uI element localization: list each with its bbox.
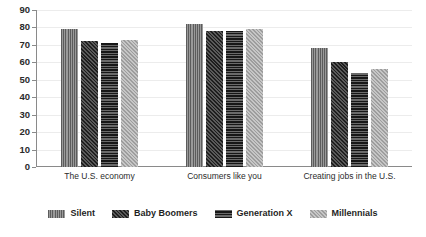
legend-swatch-icon [112, 210, 129, 218]
legend-item-generation-x[interactable]: Generation X [215, 209, 293, 218]
legend-label: Baby Boomers [134, 209, 198, 218]
bar-groups [37, 10, 412, 167]
legend-swatch-icon [48, 210, 65, 218]
y-axis-tick-label: 40 [19, 92, 30, 102]
bar [371, 69, 388, 167]
legend-swatch-icon [310, 210, 327, 218]
bar [101, 43, 118, 167]
bar [226, 31, 243, 167]
plot-area: 9080706050403020100 [36, 10, 412, 167]
y-axis-tick-label: 20 [19, 127, 30, 137]
legend-label: Millennials [332, 209, 378, 218]
bar [311, 48, 328, 167]
bar [61, 29, 78, 167]
bar [186, 24, 203, 167]
y-axis-tick-label: 30 [19, 110, 30, 120]
bar-group [162, 10, 287, 167]
chart-legend: SilentBaby BoomersGeneration XMillennial… [0, 209, 426, 218]
legend-item-millennials[interactable]: Millennials [310, 209, 378, 218]
tick-mark [32, 132, 36, 133]
legend-label: Silent [70, 209, 95, 218]
y-axis-tick-label: 80 [19, 23, 30, 33]
bar [351, 73, 368, 167]
bar-group-bars [162, 10, 287, 167]
bar [331, 62, 348, 167]
bar-group-bars [37, 10, 162, 167]
bar [81, 41, 98, 167]
tick-mark [32, 115, 36, 116]
bar [206, 31, 223, 167]
y-axis-tick-label: 60 [19, 58, 30, 68]
tick-mark [32, 27, 36, 28]
y-axis-tick-label: 70 [19, 40, 30, 50]
y-axis-tick-label: 90 [19, 5, 30, 15]
legend-swatch-icon [215, 210, 232, 218]
legend-item-baby-boomers[interactable]: Baby Boomers [112, 209, 198, 218]
tick-mark [32, 167, 36, 168]
category-axis-labels: The U.S. economyConsumers like youCreati… [37, 172, 412, 181]
tick-mark [32, 80, 36, 81]
legend-item-silent[interactable]: Silent [48, 209, 95, 218]
bar-group [287, 10, 412, 167]
tick-mark [32, 62, 36, 63]
category-label: Consumers like you [162, 172, 287, 181]
y-axis-tick-label: 50 [19, 75, 30, 85]
tick-mark [32, 10, 36, 11]
tick-mark [32, 150, 36, 151]
bar-group [37, 10, 162, 167]
bar-group-bars [287, 10, 412, 167]
bar [121, 40, 138, 167]
y-axis-tick-label: 10 [19, 145, 30, 155]
bar [246, 29, 263, 167]
tick-mark [32, 45, 36, 46]
legend-label: Generation X [237, 209, 293, 218]
category-label: Creating jobs in the U.S. [287, 172, 412, 181]
category-label: The U.S. economy [37, 172, 162, 181]
grouped-bar-chart: 9080706050403020100 The U.S. economyCons… [0, 0, 426, 237]
tick-mark [32, 97, 36, 98]
y-axis-tick-label: 0 [25, 162, 30, 172]
